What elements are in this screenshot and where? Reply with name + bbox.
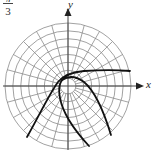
x-axis-arrow-icon	[136, 83, 144, 90]
polar-plot-figure: π 3 y x	[0, 0, 154, 155]
axes	[3, 14, 140, 150]
curve-branch-middle	[59, 77, 89, 146]
polar-spoke	[23, 92, 62, 131]
polar-grid-svg	[0, 0, 154, 155]
y-axis-label: y	[68, 0, 73, 10]
polar-spoke	[74, 41, 113, 80]
x-axis-label: x	[146, 79, 151, 90]
polar-spoke	[23, 41, 62, 80]
polar-spoke	[74, 92, 113, 131]
